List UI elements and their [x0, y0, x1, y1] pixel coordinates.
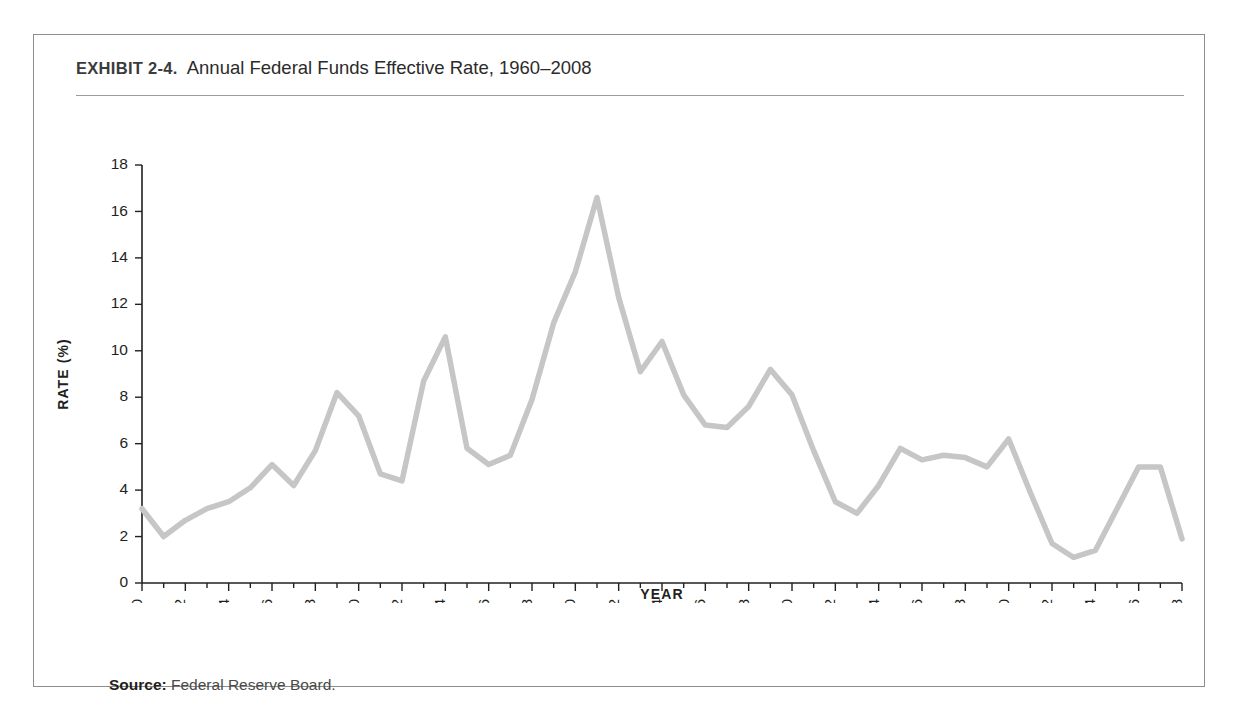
x-tick-label: 1972	[388, 599, 405, 603]
y-tick-label: 4	[119, 480, 128, 497]
y-tick-label: 12	[111, 294, 128, 311]
chart-plot-area: 0246810121416181960196219641966196819701…	[34, 123, 1204, 603]
y-axis-title: RATE (%)	[55, 338, 71, 410]
data-series-line	[142, 198, 1182, 558]
x-tick-label: 1970	[345, 599, 362, 603]
x-tick-label: 2000	[995, 599, 1012, 603]
x-tick-label: 1988	[735, 599, 752, 603]
page-title: Annual Federal Funds Effective Rate, 196…	[187, 57, 592, 79]
x-tick-label: 1960	[128, 599, 145, 603]
x-tick-label: 2006	[1125, 599, 1142, 603]
x-tick-label: 1964	[215, 599, 232, 603]
source-label: Source:	[109, 676, 167, 693]
x-tick-label: 1974	[431, 599, 448, 603]
y-tick-label: 0	[119, 573, 128, 590]
x-tick-label: 2008	[1168, 599, 1185, 603]
source-text: Federal Reserve Board.	[171, 676, 336, 693]
exhibit-title-row: EXHIBIT 2-4. Annual Federal Funds Effect…	[54, 57, 1184, 79]
y-tick-label: 2	[119, 527, 128, 544]
x-tick-label: 2004	[1081, 599, 1098, 603]
x-axis-title: YEAR	[640, 586, 683, 602]
y-tick-label: 6	[119, 434, 128, 451]
x-tick-label: 1962	[171, 599, 188, 603]
x-tick-label: 1986	[691, 599, 708, 603]
x-tick-label: 1980	[561, 599, 578, 603]
exhibit-header: EXHIBIT 2-4. Annual Federal Funds Effect…	[54, 57, 1184, 103]
exhibit-label: EXHIBIT 2-4.	[76, 59, 178, 78]
x-tick-label: 1966	[258, 599, 275, 603]
x-tick-label: 1976	[475, 599, 492, 603]
x-tick-label: 1996	[908, 599, 925, 603]
header-divider	[76, 95, 1184, 96]
source-note: Source: Federal Reserve Board.	[109, 676, 336, 694]
y-tick-label: 18	[111, 155, 128, 172]
x-tick-label: 1968	[301, 599, 318, 603]
exhibit-frame: EXHIBIT 2-4. Annual Federal Funds Effect…	[33, 34, 1205, 687]
x-tick-label: 1998	[951, 599, 968, 603]
x-tick-label: 1994	[865, 599, 882, 603]
line-chart: 0246810121416181960196219641966196819701…	[34, 123, 1204, 603]
x-tick-label: 1978	[518, 599, 535, 603]
y-tick-label: 16	[111, 202, 128, 219]
x-tick-label: 1992	[821, 599, 838, 603]
x-tick-label: 2002	[1038, 599, 1055, 603]
x-tick-label: 1990	[778, 599, 795, 603]
y-tick-label: 8	[119, 387, 128, 404]
y-tick-label: 14	[111, 248, 129, 265]
x-tick-label: 1982	[605, 599, 622, 603]
y-tick-label: 10	[111, 341, 129, 358]
